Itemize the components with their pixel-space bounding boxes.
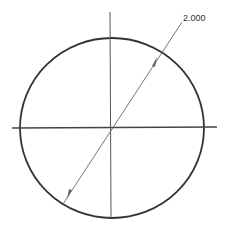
arrowhead-lower-icon bbox=[67, 189, 72, 199]
vertical-centerline[interactable] bbox=[110, 12, 111, 218]
diameter-dimension-line[interactable] bbox=[63, 22, 182, 204]
horizontal-centerline[interactable] bbox=[12, 127, 217, 128]
diameter-dimension-label[interactable]: 2.000 bbox=[183, 13, 206, 23]
cad-drawing-canvas: 2.000 bbox=[0, 0, 228, 237]
